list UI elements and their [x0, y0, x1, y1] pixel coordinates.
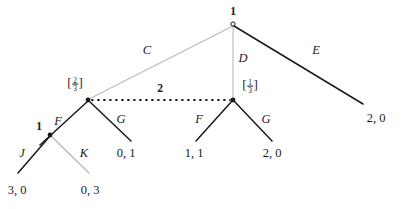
label-F-left: F: [54, 115, 62, 128]
infoset-player-label: 2: [157, 83, 163, 95]
label-G-right: G: [261, 113, 270, 126]
payoff-03: 0, 3: [81, 184, 100, 197]
game-tree-figure: 1 1 [23] [13] 2 CDEFGJKFG 2, 00, 11, 12,…: [0, 0, 404, 209]
payoff-20: 2, 0: [263, 147, 282, 160]
belief-denominator-left: 3: [72, 85, 78, 93]
node-left-infoset: [86, 98, 91, 103]
belief-label-left: [23]: [67, 76, 82, 93]
label-J: J: [19, 147, 25, 160]
belief-denominator-right: 3: [247, 87, 253, 95]
label-G-left: G: [116, 113, 125, 126]
node-right-infoset: [231, 98, 236, 103]
label-C: C: [143, 44, 151, 57]
belief-close-bracket-left: ]: [78, 75, 82, 90]
player-label-inner-1: 1: [36, 121, 42, 133]
node-inner-1: [48, 133, 53, 138]
player-label-root: 1: [230, 6, 236, 18]
belief-open-bracket-right: [: [242, 77, 246, 92]
payoff-E: 2, 0: [367, 112, 386, 125]
label-K: K: [80, 147, 88, 160]
belief-label-right: [13]: [242, 78, 257, 95]
label-D: D: [238, 52, 247, 65]
payoff-11: 1, 1: [185, 147, 204, 160]
game-tree-canvas: [0, 0, 404, 209]
payoff-30: 3, 0: [8, 184, 27, 197]
belief-close-bracket-right: ]: [253, 77, 257, 92]
belief-open-bracket-left: [: [67, 75, 71, 90]
label-F-right: F: [195, 113, 203, 126]
belief-fraction-left: 23: [72, 76, 78, 93]
label-E: E: [312, 44, 320, 57]
node-root: [231, 22, 235, 26]
belief-fraction-right: 13: [247, 78, 253, 95]
payoff-01: 0, 1: [117, 147, 136, 160]
